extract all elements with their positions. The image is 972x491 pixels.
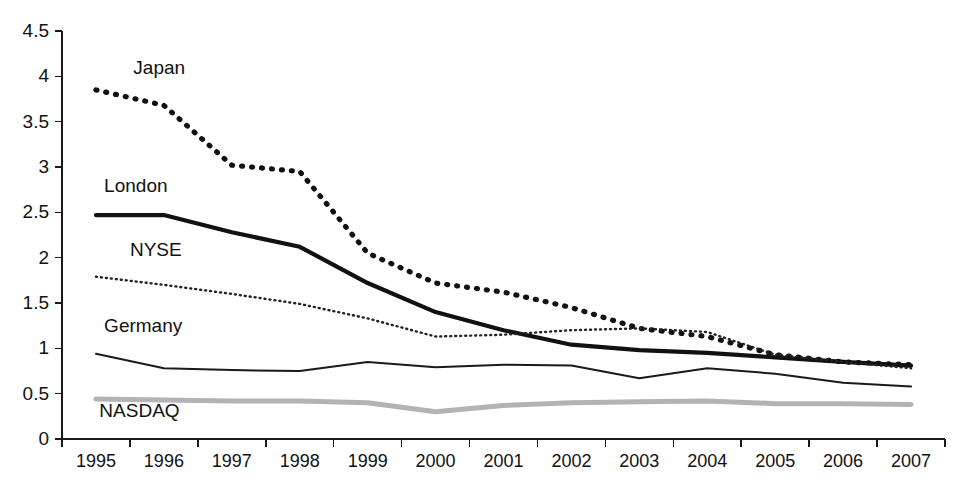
- x-tick-label: 2007: [891, 451, 931, 471]
- y-axis-tick-labels: 00.511.522.533.544.5: [23, 20, 50, 449]
- x-tick-label: 2000: [416, 451, 456, 471]
- series-label-nasdaq: NASDAQ: [99, 400, 179, 421]
- x-tick-label: 2005: [755, 451, 795, 471]
- data-series-group: [96, 90, 911, 412]
- x-tick-label: 2003: [619, 451, 659, 471]
- series-label-germany: Germany: [104, 315, 183, 336]
- x-axis-tick-labels: 1995199619971998199920002001200220032004…: [76, 451, 931, 471]
- x-tick-label: 2004: [687, 451, 727, 471]
- y-tick-label: 4: [38, 65, 49, 86]
- y-tick-label: 4.5: [23, 20, 49, 41]
- y-tick-label: 0: [38, 428, 49, 449]
- y-axis-ticks: [55, 31, 62, 439]
- series-line-london: [96, 215, 911, 366]
- y-tick-label: 1: [38, 337, 49, 358]
- x-axis-ticks: [62, 439, 945, 447]
- x-tick-label: 2001: [483, 451, 523, 471]
- x-tick-label: 1999: [348, 451, 388, 471]
- x-tick-label: 1998: [280, 451, 320, 471]
- chart-container: 00.511.522.533.544.5 1995199619971998199…: [0, 0, 972, 491]
- series-line-nasdaq: [96, 399, 911, 412]
- x-tick-label: 1996: [144, 451, 184, 471]
- y-tick-label: 3.5: [23, 111, 49, 132]
- y-tick-label: 1.5: [23, 292, 49, 313]
- cut-off-caption: [8, 480, 568, 491]
- line-chart: 00.511.522.533.544.5 1995199619971998199…: [0, 0, 972, 491]
- x-tick-label: 1995: [76, 451, 116, 471]
- series-label-japan: Japan: [133, 57, 185, 78]
- x-tick-label: 1997: [212, 451, 252, 471]
- y-tick-label: 3: [38, 156, 49, 177]
- series-label-nyse: NYSE: [130, 239, 182, 260]
- y-tick-label: 2.5: [23, 201, 49, 222]
- series-label-london: London: [104, 175, 167, 196]
- y-tick-label: 2: [38, 247, 49, 268]
- x-tick-label: 2002: [551, 451, 591, 471]
- x-tick-label: 2006: [823, 451, 863, 471]
- y-tick-label: 0.5: [23, 383, 49, 404]
